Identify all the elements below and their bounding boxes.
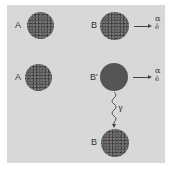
- nucleus-label-b-prime: B': [90, 73, 98, 82]
- nucleus-a-bottom: [25, 64, 52, 91]
- alpha-symbol-top: α: [155, 15, 160, 23]
- nucleus-label-b-bottom: B: [91, 138, 97, 147]
- gamma-symbol: γ: [118, 104, 123, 112]
- nucleus-b-prime: [100, 63, 128, 91]
- emission-arrow-bottom: [133, 77, 149, 78]
- nucleus-b-top: [100, 12, 129, 40]
- nucleus-b-bottom: [101, 129, 129, 157]
- second-emission-symbol-top: ē: [155, 24, 159, 31]
- alpha-symbol-bottom: α: [155, 67, 160, 75]
- second-emission-symbol-bottom: ē: [155, 76, 159, 83]
- nucleus-a-top: [27, 12, 54, 39]
- nucleus-label-a-bottom: A: [15, 73, 21, 82]
- nucleus-label-a-top: A: [15, 21, 21, 30]
- emission-arrow-top: [134, 26, 149, 27]
- nucleus-label-b-top: B: [91, 21, 97, 30]
- gamma-wave-arrow-icon: [108, 92, 128, 132]
